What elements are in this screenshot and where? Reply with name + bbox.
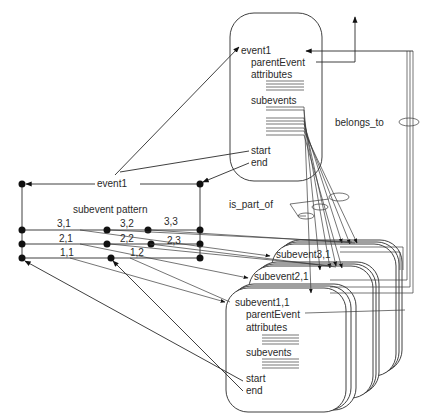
event-subevent-diagram: subevent3,1 subevent2,1 subevent1,1 pare…	[0, 0, 433, 416]
is-part-of-label: is_part_of	[229, 199, 273, 210]
subevent-card-1-1: subevent1,1 parentEvent attributes subev…	[226, 284, 356, 412]
cell-2-3: 2,3	[167, 235, 181, 246]
subevent-1-1-subevents: subevents	[246, 347, 292, 358]
parent-event-name: event1	[241, 45, 271, 56]
parent-event-card: event1 parentEvent attributes subevents …	[230, 13, 322, 181]
belongs-to-label: belongs_to	[335, 117, 384, 128]
subevent-1-1-start: start	[246, 373, 266, 384]
subevent-1-1-parent-event: parentEvent	[246, 309, 300, 320]
parent-event-subevents-field: subevents	[251, 95, 297, 106]
parent-event-end-field: end	[251, 157, 268, 168]
is-part-of-ellipse-1	[329, 193, 349, 201]
subevent-1-1-label: subevent1,1	[235, 297, 290, 308]
belongs-to-ellipse	[399, 118, 419, 126]
parent-event-parent-field: parentEvent	[251, 57, 305, 68]
cell-3-3: 3,3	[164, 216, 178, 227]
cell-3-1: 3,1	[57, 218, 71, 229]
subevent-3-1-label: subevent3,1	[276, 249, 331, 260]
cell-1-1: 1,1	[60, 247, 74, 258]
subevent-1-1-attributes: attributes	[246, 322, 287, 333]
cell-2-1: 2,1	[59, 233, 73, 244]
pattern-event-label: event1	[97, 178, 127, 189]
subevent-2-1-label: subevent2,1	[254, 271, 309, 282]
subevent-1-1-end: end	[246, 385, 263, 396]
parent-event-start-field: start	[251, 145, 271, 156]
subevent-pattern: event1 subevent pattern 3,1 3,2 3,3 2,1 …	[19, 178, 204, 262]
pattern-title: subevent pattern	[73, 204, 148, 215]
cell-3-2: 3,2	[120, 218, 134, 229]
cell-2-2: 2,2	[120, 233, 134, 244]
subevent-card-stack: subevent3,1 subevent2,1 subevent1,1 pare…	[226, 240, 402, 412]
parent-event-attributes-field: attributes	[251, 69, 292, 80]
